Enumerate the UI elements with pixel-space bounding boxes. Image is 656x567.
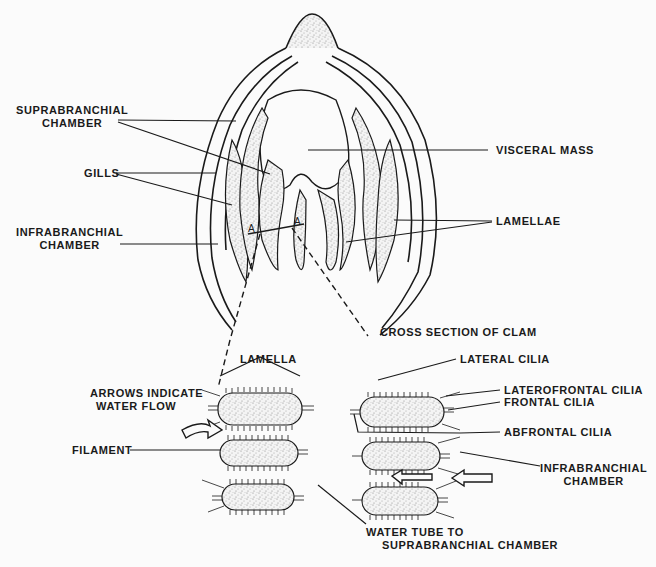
label-filament: FILAMENT [72, 444, 132, 457]
label-text: WATER TUBE TO [366, 526, 558, 539]
label-gills: GILLS [84, 167, 119, 180]
label-abfrontal-cilia: ABFRONTAL CILIA [504, 426, 612, 439]
filaments-right [360, 397, 444, 515]
filaments-left [218, 393, 302, 510]
label-text: ARROWS INDICATE [90, 387, 203, 400]
label-text: CHAMBER [16, 117, 128, 130]
section-marker-a-right: A [294, 215, 301, 228]
curved-arrow-icon [182, 420, 222, 438]
label-lamella: LAMELLA [240, 353, 297, 366]
clam-gill-diagram: SUPRABRANCHIAL CHAMBER GILLS INFRABRANCH… [0, 0, 656, 567]
label-text: CHAMBER [540, 475, 647, 488]
label-cross-section-caption: CROSS SECTION OF CLAM [380, 326, 537, 339]
section-marker-a-left: A [248, 222, 255, 235]
label-infrabranchial-chamber-bottom: INFRABRANCHIAL CHAMBER [540, 462, 647, 488]
label-text: INFRABRANCHIAL [540, 462, 647, 475]
label-text: CHAMBER [16, 239, 123, 252]
label-infrabranchial-chamber-top: INFRABRANCHIAL CHAMBER [16, 226, 123, 252]
label-text: INFRABRANCHIAL [16, 226, 123, 239]
label-arrows-indicate-water-flow: ARROWS INDICATE WATER FLOW [90, 387, 203, 413]
label-visceral-mass: VISCERAL MASS [496, 144, 594, 157]
label-text: SUPRABRANCHIAL [16, 104, 128, 117]
label-text: WATER FLOW [90, 400, 203, 413]
left-arrow-icon-2 [452, 470, 492, 486]
label-frontal-cilia: FRONTAL CILIA [504, 396, 595, 409]
label-text: SUPRABRANCHIAL CHAMBER [366, 539, 558, 552]
label-lamellae: LAMELLAE [496, 215, 561, 228]
label-water-tube: WATER TUBE TO SUPRABRANCHIAL CHAMBER [366, 526, 558, 552]
label-lateral-cilia: LATERAL CILIA [460, 353, 550, 366]
label-suprabranchial-chamber: SUPRABRANCHIAL CHAMBER [16, 104, 128, 130]
